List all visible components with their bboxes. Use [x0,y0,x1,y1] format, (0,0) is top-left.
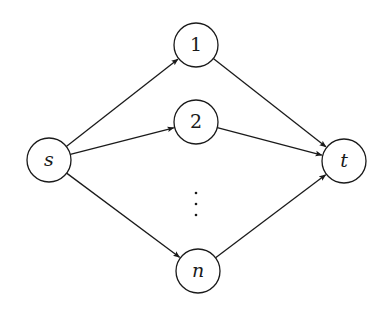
node-n: n [176,249,220,293]
edges [66,59,326,258]
edge-1-to-t [213,59,326,147]
node-1: 1 [174,23,218,67]
edge-n-to-t [216,175,326,258]
ellipsis-dot [195,192,198,195]
node-label: 2 [190,110,202,132]
flow-network-diagram: s12nt [0,0,385,315]
node-label: n [192,259,204,281]
node-2: 2 [174,100,218,144]
node-s: s [27,138,71,182]
ellipsis-dot [195,214,198,217]
node-label: 1 [190,33,202,55]
node-label: s [44,148,54,170]
edge-s-to-n [67,173,180,257]
node-t: t [322,139,366,183]
nodes: s12nt [27,23,366,293]
ellipsis-dot [195,203,198,206]
vertical-ellipsis [195,192,198,217]
node-label: t [340,149,348,171]
edge-s-to-1 [66,59,178,146]
